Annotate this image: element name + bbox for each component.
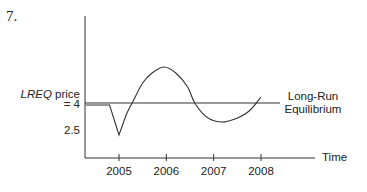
price-curve (86, 67, 261, 135)
equilibrium-label-line1: Long-Run (288, 90, 339, 102)
x-tick-label-2006: 2006 (154, 165, 180, 177)
y-axis-label-italic: LREQ (21, 88, 52, 100)
x-tick-label-2008: 2008 (248, 165, 274, 177)
y-tick-label-4: = 4 (64, 98, 81, 110)
x-axis-label: Time (322, 151, 347, 163)
equilibrium-label-line2: Equilibrium (285, 103, 342, 115)
x-tick-label-2007: 2007 (201, 165, 227, 177)
y-tick-label-2.5: 2.5 (64, 124, 80, 136)
x-tick-label-2005: 2005 (106, 165, 132, 177)
chart: 2005200620072008 LREQ price = 4 2.5 Long… (0, 0, 367, 192)
